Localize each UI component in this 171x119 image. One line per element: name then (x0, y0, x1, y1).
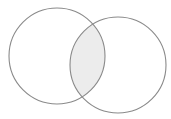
venn-diagram (0, 0, 171, 119)
